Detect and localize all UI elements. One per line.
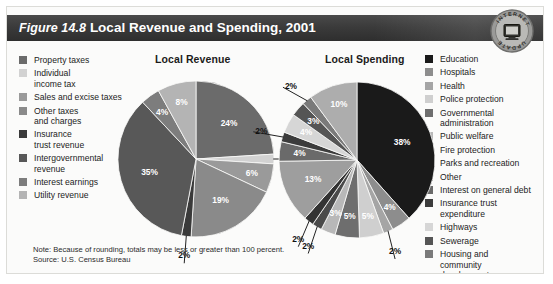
legend-swatch-icon [19, 191, 27, 199]
pie-slice-label: 6% [246, 168, 259, 178]
revenue-legend-item-4: Insurance trust revenue [19, 129, 123, 150]
revenue-legend-item-5: Intergovernmental revenue [19, 153, 123, 174]
legend-swatch-icon [19, 178, 27, 186]
legend-label: Insurance trust revenue [34, 129, 123, 150]
legend-swatch-icon [19, 130, 27, 138]
legend-swatch-icon [19, 154, 27, 162]
legend-label: Interest earnings [34, 177, 123, 187]
legend-label: Sales and excise taxes [34, 92, 123, 102]
pie-slice-label: 4% [294, 148, 307, 158]
legend-label: Parks and recreation [440, 158, 544, 168]
pie-slice-label: 24% [221, 118, 238, 128]
legend-label: Public welfare [440, 131, 544, 141]
pie-slice-label: 8% [176, 97, 189, 107]
pie-slice-label: 2% [255, 126, 268, 136]
pie-chart-local-revenue: 24%2%6%19%2%35%4%8% [111, 67, 281, 242]
legend-label: Interest on general debt [440, 185, 544, 195]
legend-label: Other taxes and charges [34, 106, 123, 127]
page-title: Figure 14.8 Local Revenue and Spending, … [19, 19, 316, 37]
pie-slice-label: 2% [389, 246, 402, 256]
revenue-legend-item-3: Other taxes and charges [19, 106, 123, 127]
revenue-legend: Property taxesIndividual income taxSales… [19, 55, 123, 204]
figure-number: Figure 14.8 [19, 21, 86, 35]
pie-slice-label: 10% [331, 99, 348, 109]
spending-legend-item-0: Education [425, 54, 544, 64]
figure-container: Figure 14.8 Local Revenue and Spending, … [6, 6, 544, 274]
chart-title-local-revenue: Local Revenue [155, 53, 230, 65]
pie-slice-label: 13% [305, 174, 322, 184]
legend-label: Highways [440, 222, 544, 232]
pie-slice-label: 4% [156, 107, 169, 117]
legend-label: Governmental administration [440, 108, 544, 129]
pie-slice-label: 5% [344, 211, 357, 221]
legend-label: Intergovernmental revenue [34, 153, 123, 174]
source-text: Source: U.S. Census Bureau [33, 255, 284, 265]
pie-slice-label: 4% [300, 127, 313, 137]
pie-slice-label: 2% [292, 234, 305, 244]
pie-slice-label: 19% [212, 195, 229, 205]
legend-swatch-icon [19, 93, 27, 101]
legend-swatch-icon [425, 55, 433, 63]
revenue-legend-item-7: Utility revenue [19, 190, 123, 200]
pie-slice-label: 5% [362, 211, 375, 221]
legend-label: Hospitals [440, 67, 544, 77]
revenue-legend-item-6: Interest earnings [19, 177, 123, 187]
pie-slice-label: 38% [394, 137, 411, 147]
spending-legend-item-13: Housing and community development [425, 249, 544, 274]
pie-slice-label: 3% [329, 208, 342, 218]
pie-slice-label: 35% [141, 167, 158, 177]
pie-slice-label: 2% [285, 81, 298, 91]
legend-label: Other [440, 172, 544, 182]
legend-label: Property taxes [34, 55, 123, 65]
figure-title-text: Local Revenue and Spending, 2001 [90, 20, 316, 35]
revenue-legend-item-2: Sales and excise taxes [19, 92, 123, 102]
pie-slice-label: 4% [384, 202, 397, 212]
note-text: Note: Because of rounding, totals may be… [33, 245, 284, 255]
legend-swatch-icon [19, 56, 27, 64]
legend-swatch-icon [19, 107, 27, 115]
legend-swatch-icon [19, 69, 27, 77]
legend-label: Insurance trust expenditure [440, 198, 544, 219]
chart-title-local-spending: Local Spending [325, 53, 405, 65]
legend-label: Housing and community development [440, 249, 544, 274]
legend-label: Utility revenue [34, 190, 123, 200]
legend-label: Police protection [440, 94, 544, 104]
legend-swatch-icon [425, 250, 433, 258]
revenue-legend-item-0: Property taxes [19, 55, 123, 65]
figure-footnotes: Note: Because of rounding, totals may be… [33, 245, 284, 266]
legend-label: Health [440, 81, 544, 91]
legend-label: Sewerage [440, 236, 544, 246]
pie-chart-local-spending: 38%4%2%5%5%3%2%2%13%4%2%4%3%2%10% [269, 67, 445, 247]
internet-update-badge[interactable]: INTERNET UPDATE [490, 9, 534, 53]
legend-label: Education [440, 54, 544, 64]
pie-slice-label: 3% [307, 116, 320, 126]
revenue-legend-item-1: Individual income tax [19, 68, 123, 89]
legend-label: Fire protection [440, 145, 544, 155]
legend-label: Individual income tax [34, 68, 123, 89]
